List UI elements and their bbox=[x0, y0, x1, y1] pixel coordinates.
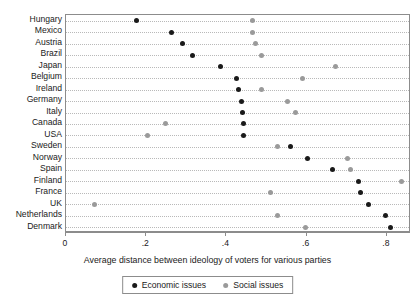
y-axis-label-usa: USA bbox=[44, 129, 62, 140]
legend-label-economic: Economic issues bbox=[142, 280, 206, 290]
data-point-economic bbox=[218, 64, 223, 69]
y-axis-label-hungary: Hungary bbox=[30, 14, 62, 25]
chart-row bbox=[66, 95, 409, 106]
data-point-social bbox=[145, 133, 150, 138]
data-point-economic bbox=[180, 41, 185, 46]
chart-row bbox=[66, 38, 409, 49]
y-axis-label-norway: Norway bbox=[33, 152, 62, 163]
chart-row bbox=[66, 176, 409, 187]
x-axis-line bbox=[65, 232, 410, 233]
x-tick-label: .4 bbox=[222, 238, 229, 248]
data-point-social bbox=[333, 64, 338, 69]
data-point-economic bbox=[288, 144, 293, 149]
chart-row bbox=[66, 49, 409, 60]
data-point-social bbox=[259, 53, 264, 58]
chart-row bbox=[66, 15, 409, 26]
gridline bbox=[66, 158, 409, 159]
gridline bbox=[66, 135, 409, 136]
data-point-social bbox=[293, 110, 298, 115]
x-tick bbox=[145, 232, 146, 236]
gridline bbox=[66, 55, 409, 56]
y-axis-label-finland: Finland bbox=[34, 175, 62, 186]
y-axis-label-belgium: Belgium bbox=[31, 71, 62, 82]
gridline bbox=[66, 170, 409, 171]
gridline bbox=[66, 67, 409, 68]
chart-row bbox=[66, 199, 409, 210]
x-tick-label: .6 bbox=[302, 238, 309, 248]
data-point-economic bbox=[241, 121, 246, 126]
chart-row bbox=[66, 72, 409, 83]
gridline bbox=[66, 32, 409, 33]
gridline bbox=[66, 204, 409, 205]
gridline bbox=[66, 216, 409, 217]
legend-label-social: Social issues bbox=[233, 280, 283, 290]
chart-row bbox=[66, 118, 409, 129]
y-axis-label-austria: Austria bbox=[35, 37, 62, 48]
y-axis-label-mexico: Mexico bbox=[35, 25, 62, 36]
gridline bbox=[66, 227, 409, 228]
data-point-social bbox=[399, 179, 404, 184]
plot-area bbox=[65, 14, 410, 232]
data-point-economic bbox=[358, 190, 363, 195]
data-point-social bbox=[250, 18, 255, 23]
gridline bbox=[66, 21, 409, 22]
data-point-social bbox=[303, 225, 308, 230]
x-tick-label: .2 bbox=[142, 238, 149, 248]
chart-row bbox=[66, 164, 409, 175]
data-point-economic bbox=[234, 76, 239, 81]
y-axis-label-netherlands: Netherlands bbox=[16, 209, 62, 220]
chart-row bbox=[66, 61, 409, 72]
x-tick bbox=[225, 232, 226, 236]
chart-row bbox=[66, 84, 409, 95]
gridline bbox=[66, 113, 409, 114]
data-point-economic bbox=[356, 179, 361, 184]
data-point-social bbox=[163, 121, 168, 126]
chart-row bbox=[66, 26, 409, 37]
chart-legend: Economic issues Social issues bbox=[122, 276, 294, 294]
gridline bbox=[66, 44, 409, 45]
data-point-economic bbox=[388, 225, 393, 230]
data-point-social bbox=[259, 87, 264, 92]
legend-item-social: Social issues bbox=[223, 280, 283, 290]
gridline bbox=[66, 147, 409, 148]
x-tick bbox=[386, 232, 387, 236]
data-point-social bbox=[285, 99, 290, 104]
data-point-social bbox=[300, 76, 305, 81]
social-dot-icon bbox=[223, 283, 228, 288]
data-point-economic bbox=[305, 156, 310, 161]
chart-row bbox=[66, 153, 409, 164]
y-axis-label-germany: Germany bbox=[27, 94, 62, 105]
data-point-social bbox=[275, 213, 280, 218]
y-axis-label-spain: Spain bbox=[40, 163, 62, 174]
x-tick bbox=[65, 232, 66, 236]
y-axis-label-denmark: Denmark bbox=[27, 221, 62, 232]
economic-dot-icon bbox=[132, 283, 137, 288]
y-axis-label-france: France bbox=[35, 186, 62, 197]
data-point-economic bbox=[169, 30, 174, 35]
y-axis-label-canada: Canada bbox=[32, 117, 62, 128]
chart-row bbox=[66, 210, 409, 221]
data-point-social bbox=[253, 41, 258, 46]
data-point-economic bbox=[240, 110, 245, 115]
legend-item-economic: Economic issues bbox=[132, 280, 206, 290]
chart-row bbox=[66, 107, 409, 118]
data-point-economic bbox=[190, 53, 195, 58]
y-axis-label-italy: Italy bbox=[46, 106, 62, 117]
gridline bbox=[66, 101, 409, 102]
y-axis-category-labels: HungaryMexicoAustriaBrazilJapanBelgiumIr… bbox=[0, 14, 62, 232]
data-point-social bbox=[345, 156, 350, 161]
data-point-social bbox=[250, 30, 255, 35]
x-tick-label: 0 bbox=[63, 238, 68, 248]
data-point-social bbox=[275, 144, 280, 149]
x-tick bbox=[306, 232, 307, 236]
data-point-economic bbox=[383, 213, 388, 218]
data-point-economic bbox=[241, 133, 246, 138]
ideology-distance-dot-chart: HungaryMexicoAustriaBrazilJapanBelgiumIr… bbox=[0, 0, 415, 307]
data-point-social bbox=[268, 190, 273, 195]
gridline bbox=[66, 124, 409, 125]
data-point-social bbox=[92, 202, 97, 207]
x-axis-title: Average distance between ideology of vot… bbox=[0, 255, 415, 265]
y-axis-label-sweden: Sweden bbox=[31, 140, 62, 151]
y-axis-label-ireland: Ireland bbox=[36, 83, 62, 94]
y-axis-label-japan: Japan bbox=[39, 60, 62, 71]
